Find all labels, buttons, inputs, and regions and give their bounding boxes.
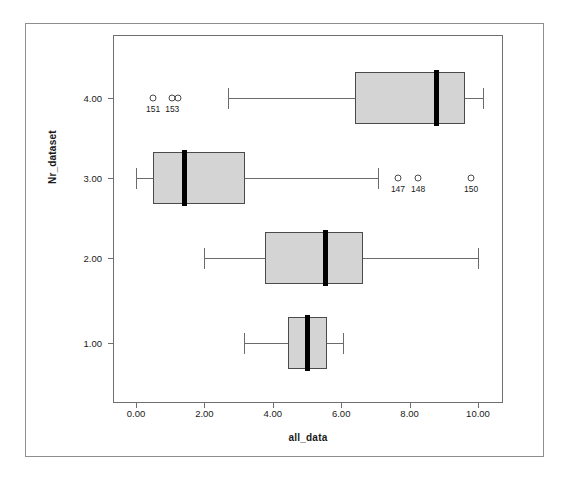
scan-top-fragment	[12, 0, 272, 9]
whisker-low-cap	[204, 248, 205, 269]
y-tick-label: 3.00	[62, 173, 102, 184]
whisker-low-line	[228, 98, 355, 99]
outlier-marker	[175, 95, 182, 102]
y-tick-mark	[108, 343, 113, 344]
median-line	[182, 150, 187, 206]
box-iqr	[355, 72, 465, 124]
outlier-label: 153	[165, 104, 179, 114]
outlier-marker	[415, 175, 422, 182]
outlier-marker	[394, 175, 401, 182]
median-line	[434, 70, 439, 126]
x-tick-label: 6.00	[332, 408, 351, 419]
outlier-marker	[468, 175, 475, 182]
y-tick-mark	[108, 178, 113, 179]
whisker-high-line	[327, 343, 343, 344]
outlier-marker	[150, 95, 157, 102]
x-tick-label: 8.00	[400, 408, 419, 419]
whisker-high-cap	[483, 88, 484, 109]
outlier-label: 151	[146, 104, 160, 114]
whisker-high-line	[465, 98, 483, 99]
whisker-high-line	[363, 258, 478, 259]
x-tick-label: 10.00	[466, 408, 490, 419]
outlier-label: 147	[391, 184, 405, 194]
y-axis-title: Nr_dataset	[47, 130, 58, 184]
outlier-label: 150	[464, 184, 478, 194]
x-tick-label: 2.00	[195, 408, 214, 419]
y-tick-mark	[108, 98, 113, 99]
whisker-high-line	[245, 178, 378, 179]
median-line	[305, 315, 310, 371]
whisker-low-line	[204, 258, 265, 259]
whisker-low-line	[136, 178, 153, 179]
x-tick-label: 4.00	[264, 408, 283, 419]
outlier-label: 148	[411, 184, 425, 194]
box-iqr	[153, 152, 245, 204]
whisker-high-cap	[378, 168, 379, 189]
whisker-low-cap	[244, 333, 245, 354]
x-axis-title: all_data	[113, 432, 503, 443]
whisker-low-line	[244, 343, 288, 344]
whisker-high-cap	[478, 248, 479, 269]
median-line	[323, 230, 328, 286]
y-tick-label: 4.00	[62, 93, 102, 104]
whisker-low-cap	[136, 168, 137, 189]
whisker-low-cap	[228, 88, 229, 109]
y-tick-label: 2.00	[62, 253, 102, 264]
box-iqr	[265, 232, 363, 284]
y-tick-label: 1.00	[62, 338, 102, 349]
y-tick-mark	[108, 258, 113, 259]
x-tick-label: 0.00	[127, 408, 146, 419]
chart-canvas: 0.002.004.006.008.0010.00 1.002.003.004.…	[0, 0, 569, 482]
whisker-high-cap	[343, 333, 344, 354]
